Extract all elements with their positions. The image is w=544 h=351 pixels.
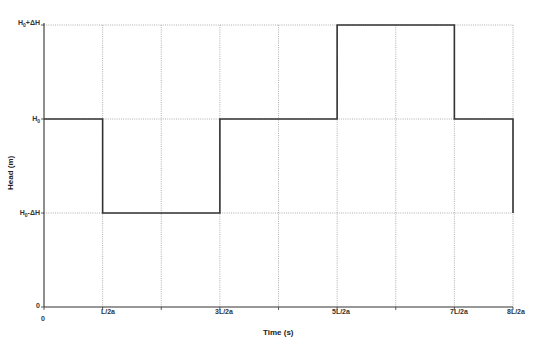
x-tick-zero: 0 (41, 315, 45, 322)
y-axis-title: Head (m) (6, 156, 15, 190)
x-tick-7l-2a: 7L/2a (450, 308, 468, 315)
x-tick-8l-2a: 8L/2a (507, 308, 525, 315)
gridlines (44, 25, 513, 307)
x-tick-l-2a: L/2a (101, 308, 115, 315)
y-tick-h0-plus-dh: H0+ΔH (0, 19, 40, 28)
y-tick-zero: 0 (0, 302, 40, 309)
y-tick-h0-minus-dh: H0-ΔH (0, 209, 40, 218)
x-tick-5l-2a: 5L/2a (332, 308, 350, 315)
x-axis-title: Time (s) (263, 328, 294, 337)
tick-marks (41, 25, 513, 310)
y-tick-h0: H0 (0, 115, 40, 124)
chart-plot-area (0, 0, 544, 351)
x-tick-3l-2a: 3L/2a (215, 308, 233, 315)
